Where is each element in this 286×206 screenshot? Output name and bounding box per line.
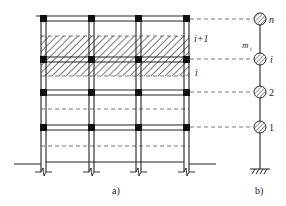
mass-node-label: i <box>270 54 273 65</box>
diagram-svg: i+1 i a) <box>0 0 286 206</box>
lumped-mass-panel-b: n i 2 1 m i b) <box>242 13 274 197</box>
floor-label-upper: i+1 <box>194 33 209 44</box>
panel-b-label: b) <box>255 185 263 197</box>
mass-node-i: i <box>254 53 273 65</box>
mass-node-label: 2 <box>269 87 274 98</box>
floor-label-lower: i <box>195 67 198 78</box>
mass-node-label: 1 <box>269 122 274 133</box>
column-break-symbols <box>35 168 195 176</box>
mass-node-label: n <box>269 14 274 25</box>
mass-label: m <box>242 40 249 50</box>
mass-node-2: 2 <box>254 86 274 98</box>
fixed-support-icon <box>250 169 270 174</box>
hatched-floor-band <box>41 36 189 76</box>
storey-midlines <box>41 109 189 146</box>
mass-subscript: i <box>250 46 252 52</box>
frame-panel-a: i+1 i a) <box>14 15 216 197</box>
panel-a-label: a) <box>112 185 120 197</box>
mass-node-n: n <box>254 13 274 25</box>
mass-node-1: 1 <box>254 121 274 133</box>
diagram-canvas: i+1 i a) <box>0 0 286 206</box>
